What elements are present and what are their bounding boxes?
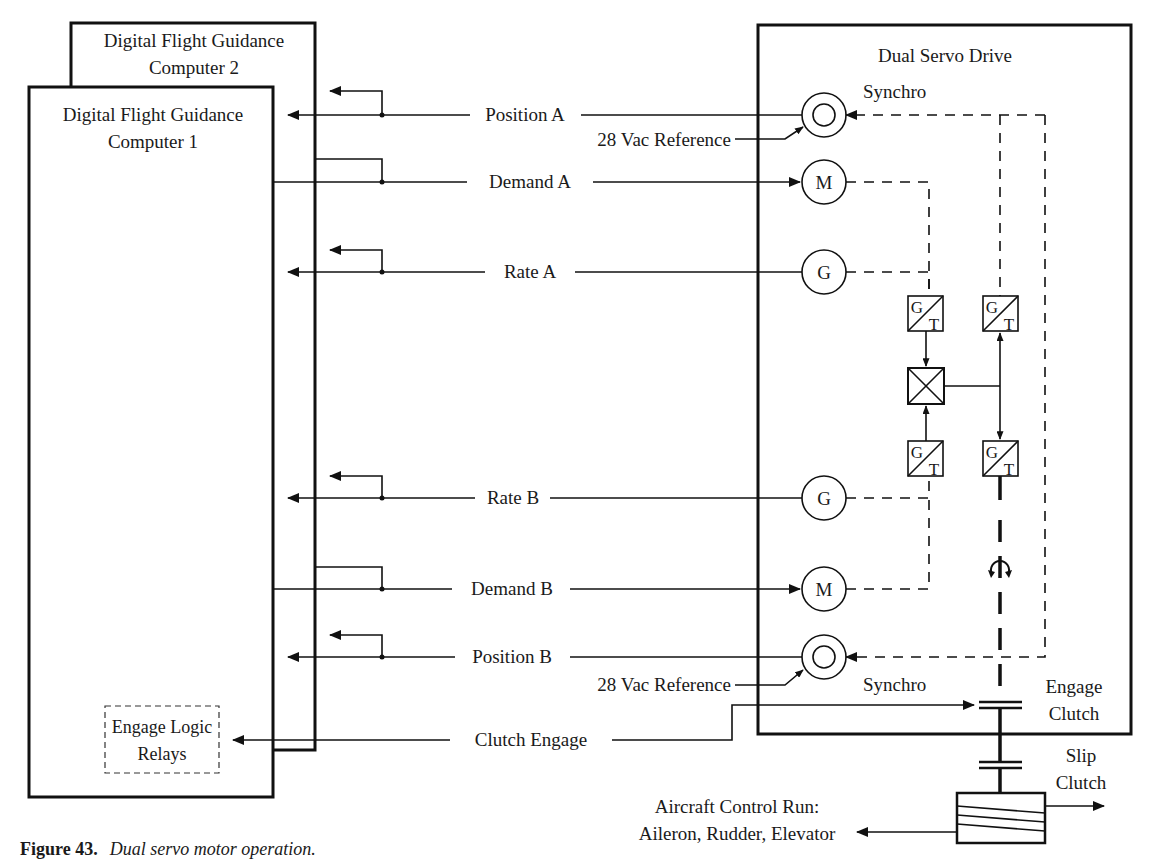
computer-2-title-line2: Computer 2 (149, 57, 239, 78)
clutch-engage-label: Clutch Engage (475, 729, 587, 750)
position-a-label: Position A (485, 104, 565, 125)
engage-logic-relays-box: Engage Logic Relays (105, 706, 219, 773)
svg-text:T: T (929, 315, 940, 334)
gt-box-top-right: G T (983, 296, 1018, 334)
engage-logic-line2: Relays (138, 744, 187, 764)
engage-logic-line1: Engage Logic (112, 717, 212, 737)
generator-b: G (802, 476, 846, 520)
engage-clutch-line1: Engage (1046, 676, 1103, 697)
dual-servo-diagram: Digital Flight Guidance Computer 2 Digit… (0, 0, 1150, 862)
cable-drum (857, 793, 1104, 843)
signal-clutch-engage: Clutch Engage (233, 705, 974, 750)
control-run-line1: Aircraft Control Run: (655, 796, 820, 817)
ref-a: 28 Vac Reference (597, 127, 803, 150)
rate-b-label: Rate B (487, 487, 539, 508)
slip-clutch-line2: Clutch (1056, 772, 1107, 793)
figure-caption: Figure 43. Dual servo motor operation. (20, 839, 316, 859)
synchro-b: Synchro (802, 635, 926, 695)
motor-b: M (802, 567, 846, 611)
svg-text:T: T (1004, 460, 1015, 479)
ref-b: 28 Vac Reference (597, 670, 803, 695)
rate-a-label: Rate A (504, 261, 557, 282)
svg-text:Figure 43. Dual servo mo: Figure 43. Dual servo motor operation. (20, 839, 316, 859)
svg-text:G: G (986, 298, 998, 317)
signal-position-b: Position B (288, 635, 802, 667)
differential-box (908, 368, 944, 404)
engage-clutch-line2: Clutch (1049, 703, 1100, 724)
demand-b-label: Demand B (471, 578, 553, 599)
gt-box-top-left: G T (908, 296, 943, 334)
motor-a-glyph: M (816, 172, 833, 193)
control-run-label: Aircraft Control Run: Aileron, Rudder, E… (639, 796, 836, 844)
svg-text:G: G (911, 298, 923, 317)
synchro-b-label: Synchro (863, 674, 926, 695)
computer-1-title-line2: Computer 1 (108, 131, 198, 152)
synchro-a-label: Synchro (863, 81, 926, 102)
svg-text:G: G (986, 443, 998, 462)
signal-rate-a: Rate A (288, 250, 802, 282)
synchro-a: Synchro (802, 81, 926, 137)
gt-box-bottom-left: G T (908, 441, 943, 479)
signal-demand-a: Demand A (273, 159, 800, 192)
motor-b-glyph: M (816, 579, 833, 600)
svg-text:T: T (1004, 315, 1015, 334)
generator-a: G (802, 250, 846, 294)
slip-clutch-line1: Slip (1066, 745, 1097, 766)
slip-clutch: Slip Clutch (979, 745, 1107, 793)
signal-rate-b: Rate B (288, 476, 802, 508)
gt-box-bottom-right: G T (983, 441, 1018, 479)
ref-b-label: 28 Vac Reference (597, 674, 731, 695)
position-b-label: Position B (472, 646, 552, 667)
signal-position-a: Position A (288, 91, 802, 125)
figure-number: Figure 43. (20, 839, 98, 859)
generator-b-glyph: G (817, 488, 831, 509)
computer-1-title-line1: Digital Flight Guidance (63, 104, 243, 125)
motor-a: M (802, 160, 846, 204)
computer-1-box: Digital Flight Guidance Computer 1 (29, 87, 273, 797)
demand-a-label: Demand A (489, 171, 571, 192)
computer-2-title-line1: Digital Flight Guidance (104, 30, 284, 51)
ref-a-label: 28 Vac Reference (597, 129, 731, 150)
servo-title: Dual Servo Drive (878, 45, 1012, 66)
svg-text:G: G (911, 443, 923, 462)
control-run-line2: Aileron, Rudder, Elevator (639, 823, 836, 844)
generator-a-glyph: G (817, 262, 831, 283)
figure-text: Dual servo motor operation. (109, 839, 316, 859)
svg-text:T: T (929, 460, 940, 479)
signal-demand-b: Demand B (273, 567, 800, 599)
